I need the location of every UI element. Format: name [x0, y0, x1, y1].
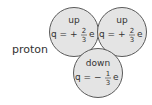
fraction-numerator: 2: [82, 27, 86, 35]
fraction-denominator: 3: [82, 36, 86, 44]
fraction-denominator: 3: [130, 36, 134, 44]
fraction-denominator: 3: [106, 79, 110, 87]
quark-name: down: [86, 58, 110, 68]
quark-name: up: [116, 15, 128, 25]
quark-charge-prefix: q = +: [51, 29, 78, 39]
proton-quark-diagram: proton up q = + 2 3 e up q = + 2 3 e dow…: [0, 0, 152, 105]
fraction-numerator: 2: [130, 27, 134, 35]
quark-charge-prefix: q = −: [75, 72, 102, 82]
quark-down-bottom: down q = − 1 3 e: [74, 49, 123, 98]
quark-name: up: [68, 15, 80, 25]
charge-unit: e: [137, 29, 143, 39]
charge-unit: e: [89, 29, 95, 39]
fraction-numerator: 1: [106, 70, 110, 78]
quark-charge-prefix: q = +: [99, 29, 126, 39]
charge-unit: e: [113, 72, 119, 82]
particle-label: proton: [12, 43, 48, 56]
